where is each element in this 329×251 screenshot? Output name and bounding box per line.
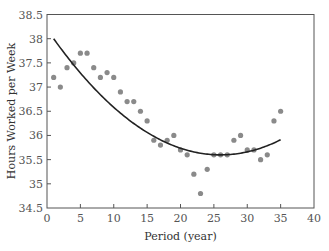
data-points <box>51 51 283 196</box>
x-tick-label: 35 <box>274 212 288 225</box>
x-tick-label: 0 <box>44 212 51 225</box>
y-tick-label: 36 <box>29 129 43 142</box>
data-point <box>58 84 63 89</box>
scatter-chart: 34.53535.53636.53737.53838.5 05101520253… <box>0 0 329 251</box>
y-tick-label: 38 <box>29 33 43 46</box>
data-point <box>151 138 156 143</box>
data-point <box>238 133 243 138</box>
data-point <box>64 65 69 70</box>
data-point <box>51 75 56 80</box>
y-tick-label: 37 <box>29 81 43 94</box>
y-tick-label: 35.5 <box>19 154 44 167</box>
data-point <box>271 118 276 123</box>
x-axis-ticks: 0510152025303540 <box>44 204 322 225</box>
plot-frame <box>47 15 314 209</box>
y-axis-title: Hours Worked per Week <box>5 43 18 180</box>
y-tick-label: 34.5 <box>19 202 44 215</box>
data-point <box>104 70 109 75</box>
y-axis-ticks: 34.53535.53636.53737.53838.5 <box>19 9 52 216</box>
x-axis-title: Period (year) <box>144 230 216 243</box>
data-point <box>91 65 96 70</box>
x-tick-label: 20 <box>174 212 188 225</box>
data-point <box>111 75 116 80</box>
data-point <box>138 109 143 114</box>
data-point <box>118 89 123 94</box>
y-tick-label: 37.5 <box>19 57 44 70</box>
x-tick-label: 40 <box>307 212 321 225</box>
data-point <box>231 138 236 143</box>
trend-curve <box>54 39 281 155</box>
data-point <box>98 75 103 80</box>
data-point <box>145 118 150 123</box>
data-point <box>265 152 270 157</box>
data-point <box>205 167 210 172</box>
x-tick-label: 25 <box>207 212 221 225</box>
x-tick-label: 5 <box>77 212 84 225</box>
x-tick-label: 30 <box>240 212 254 225</box>
data-point <box>171 133 176 138</box>
data-point <box>78 51 83 56</box>
data-point <box>125 99 130 104</box>
data-point <box>191 172 196 177</box>
x-tick-label: 10 <box>107 212 121 225</box>
data-point <box>185 152 190 157</box>
y-tick-label: 35 <box>29 178 43 191</box>
x-tick-label: 15 <box>140 212 154 225</box>
y-tick-label: 36.5 <box>19 105 44 118</box>
y-tick-label: 38.5 <box>19 9 44 22</box>
data-point <box>258 157 263 162</box>
data-point <box>198 191 203 196</box>
data-point <box>158 143 163 148</box>
data-point <box>84 51 89 56</box>
data-point <box>278 109 283 114</box>
data-point <box>131 99 136 104</box>
